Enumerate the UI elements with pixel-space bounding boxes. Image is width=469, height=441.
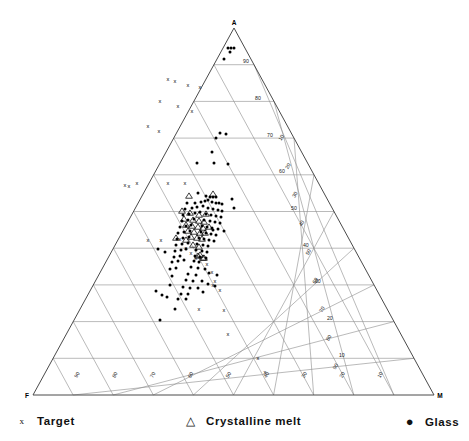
glass-point (207, 283, 210, 286)
legend-entry-glass: ● Glass (404, 415, 459, 428)
glass-point (213, 240, 216, 243)
crystalline-melt-point (186, 193, 193, 198)
glass-point (197, 267, 200, 270)
legend-label-glass: Glass (425, 416, 459, 428)
glass-point (196, 243, 199, 246)
target-point: x (199, 84, 202, 90)
glass-point (215, 234, 218, 237)
glass-point (182, 237, 185, 240)
glass-point (215, 202, 218, 205)
glass-point (166, 296, 169, 299)
target-point: x (147, 123, 150, 129)
glass-point (177, 232, 180, 235)
target-point: x (257, 355, 260, 361)
x-marker-icon: x (16, 417, 28, 426)
legend-label-crystalline-melt: Crystalline melt (206, 415, 301, 427)
glass-point (177, 260, 180, 263)
target-point: x (128, 183, 131, 189)
target-point: x (211, 269, 214, 275)
target-point: x (187, 82, 190, 88)
legend: x Target △ Crystalline melt ● Glass (0, 406, 469, 441)
glass-point (195, 249, 198, 252)
target-point: x (227, 331, 230, 337)
target-point: x (174, 78, 177, 84)
grid-line-right-diagonal (254, 65, 394, 395)
glass-point (186, 202, 189, 205)
glass-point (171, 275, 174, 278)
glass-point (206, 251, 209, 254)
glass-point (181, 243, 184, 246)
glass-point (194, 202, 197, 205)
glass-point (208, 239, 211, 242)
glass-point (187, 219, 190, 222)
glass-point (233, 47, 236, 50)
target-point: x (184, 180, 187, 186)
glass-point (207, 245, 210, 248)
glass-point (181, 220, 184, 223)
glass-point (202, 291, 205, 294)
glass-point (175, 267, 178, 270)
glass-point (190, 266, 193, 269)
vertex-label-a: A (232, 19, 237, 26)
dot-marker-icon: ● (404, 415, 416, 428)
glass-point (213, 162, 216, 165)
glass-point (221, 210, 224, 213)
target-point: x (124, 182, 127, 188)
legend-entry-crystalline-melt: △ Crystalline melt (185, 415, 301, 427)
glass-point (155, 290, 158, 293)
glass-point (164, 251, 167, 254)
glass-point (185, 248, 188, 251)
tick-label: 70 (148, 371, 156, 379)
legend-entry-target: x Target (16, 415, 75, 427)
glass-point (210, 233, 213, 236)
glass-point (177, 298, 180, 301)
glass-point (198, 237, 201, 240)
glass-point (212, 229, 215, 232)
glass-point (171, 261, 174, 264)
glass-point (193, 260, 196, 263)
glass-point (211, 151, 214, 154)
tick-label: 40 (303, 242, 309, 248)
glass-point (227, 47, 230, 50)
target-point: x (147, 237, 150, 243)
glass-point (223, 58, 226, 61)
glass-point (188, 213, 191, 216)
target-point: x (136, 180, 139, 186)
target-point: x (158, 128, 161, 134)
glass-point (207, 199, 210, 202)
glass-point (212, 208, 215, 211)
glass-point (223, 230, 226, 233)
glass-point (206, 226, 209, 229)
glass-point (207, 207, 210, 210)
glass-point (180, 293, 183, 296)
tick-label: 60 (279, 168, 285, 174)
ternary-diagram: 9080706050403020109080706050403020109080… (0, 0, 469, 406)
glass-point (208, 272, 211, 275)
tick-label: 30 (300, 371, 308, 379)
glass-point (174, 250, 177, 253)
target-point: x (167, 76, 170, 82)
grid-line-left-diagonal (53, 358, 73, 395)
vertex-label-m: M (437, 392, 442, 399)
glass-point (194, 255, 197, 258)
glass-point (205, 195, 208, 198)
tick-label: 50 (224, 371, 232, 379)
glass-point (197, 287, 200, 290)
target-point: x (206, 261, 209, 267)
data-points: xxxxxxxxxxxxxxxxxxxxxxxxxxxxxx (124, 47, 267, 376)
glass-point (187, 293, 190, 296)
glass-point (231, 198, 234, 201)
glass-point (184, 208, 187, 211)
glass-point (200, 201, 203, 204)
target-point: x (190, 250, 193, 256)
tick-label: 80 (324, 334, 332, 342)
vertex-label-f: F (25, 392, 29, 399)
glass-point (215, 196, 218, 199)
glass-point (203, 219, 206, 222)
target-point: x (264, 369, 267, 375)
glass-point (195, 274, 198, 277)
target-point: x (191, 108, 194, 114)
target-point: x (177, 103, 180, 109)
glass-point (157, 248, 160, 251)
tick-label: 10 (376, 371, 384, 379)
